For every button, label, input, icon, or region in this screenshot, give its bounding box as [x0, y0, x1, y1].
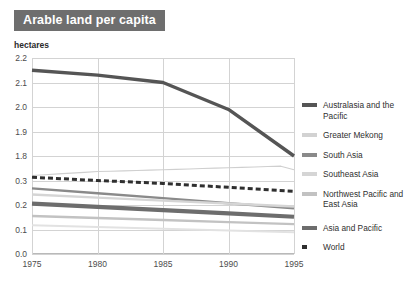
legend-swatch-icon — [302, 192, 317, 196]
legend-swatch-icon — [302, 153, 317, 157]
legend-item[interactable]: Southeast Asia — [302, 169, 412, 180]
plot-wrapper: 2.22.12.01.91.80.30.20.10.0 197519801985… — [32, 58, 294, 254]
series-line — [32, 216, 294, 224]
legend-item-label: Northwest Pacific and East Asia — [323, 189, 412, 210]
legend-item[interactable]: Greater Mekong — [302, 130, 412, 141]
legend-item[interactable]: Northwest Pacific and East Asia — [302, 189, 412, 210]
legend-swatch-icon — [302, 172, 317, 176]
series-line — [32, 70, 294, 156]
legend-item-label: Southeast Asia — [323, 169, 378, 180]
series-line — [32, 177, 294, 191]
y-tick-label: 0.1 — [15, 225, 27, 235]
y-tick-label: 2.2 — [15, 53, 27, 63]
gridline-horizontal — [32, 254, 294, 255]
series-line — [32, 166, 294, 175]
legend-item-label: World — [323, 242, 345, 253]
x-tick-label: 1980 — [88, 259, 107, 269]
legend-swatch-icon — [302, 103, 317, 107]
series-line — [32, 225, 294, 232]
y-tick-label: 2.0 — [15, 102, 27, 112]
legend-item[interactable]: Asia and Pacific — [302, 223, 412, 234]
legend-group-regions: Australasia and the PacificGreater Mekon… — [302, 100, 412, 210]
series-layer — [32, 58, 294, 254]
x-tick-label: 1985 — [154, 259, 173, 269]
x-tick-label: 1975 — [23, 259, 42, 269]
y-tick-label: 1.9 — [15, 127, 27, 137]
legend-item-label: Asia and Pacific — [323, 223, 382, 234]
legend-item[interactable]: World — [302, 242, 412, 253]
x-tick-label: 1990 — [219, 259, 238, 269]
legend-item[interactable]: South Asia — [302, 150, 412, 161]
y-tick-label: 0.0 — [15, 249, 27, 259]
legend-swatch-icon — [302, 133, 317, 137]
y-tick-label: 0.3 — [15, 176, 27, 186]
y-tick-label: 1.8 — [15, 151, 27, 161]
legend-item-label: Greater Mekong — [323, 130, 383, 141]
chart-legend: Australasia and the PacificGreater Mekon… — [302, 100, 412, 262]
legend-swatch-icon — [302, 245, 317, 249]
x-tick-label: 1995 — [285, 259, 304, 269]
chart-title: Arable land per capita — [14, 10, 165, 31]
legend-item-label: Australasia and the Pacific — [323, 100, 412, 121]
legend-group-aggregates: Asia and PacificWorld — [302, 223, 412, 253]
y-tick-label: 0.2 — [15, 200, 27, 210]
gridline-vertical — [294, 58, 295, 254]
legend-item-label: South Asia — [323, 150, 363, 161]
y-axis-unit-label: hectares — [14, 40, 49, 50]
plot-area: 2.22.12.01.91.80.30.20.10.0 197519801985… — [32, 58, 294, 254]
legend-item[interactable]: Australasia and the Pacific — [302, 100, 412, 121]
chart-root: Arable land per capita hectares 2.22.12.… — [0, 0, 415, 288]
legend-swatch-icon — [302, 226, 317, 230]
y-tick-label: 2.1 — [15, 78, 27, 88]
